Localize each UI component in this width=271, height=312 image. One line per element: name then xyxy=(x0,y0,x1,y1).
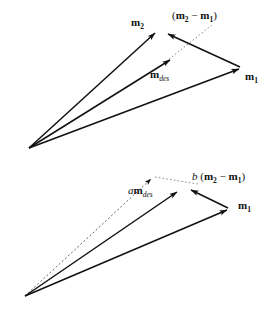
diagram-canvas: m2 (m2 − m1) mdes m1 amdes xyxy=(0,0,271,312)
canvas-background xyxy=(0,0,271,312)
vector-diagram-figure: m2 (m2 − m1) mdes m1 amdes xyxy=(0,0,271,312)
